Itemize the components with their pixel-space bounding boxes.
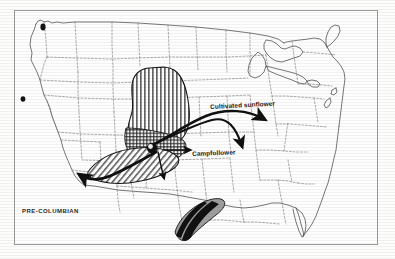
map-canvas	[0, 0, 395, 259]
california-locality-dot	[21, 96, 26, 102]
great-lakes-outline	[248, 40, 320, 87]
map-figure: Cultivated sunflower Campfollower PRE-CO…	[0, 0, 395, 259]
washington-locality-dot	[40, 24, 45, 31]
arrow-origin-inner	[148, 144, 153, 149]
region-gulf-crescent	[175, 199, 225, 242]
label-pre-columbian: PRE-COLUMBIAN	[22, 208, 79, 214]
locality-dots	[21, 24, 46, 102]
